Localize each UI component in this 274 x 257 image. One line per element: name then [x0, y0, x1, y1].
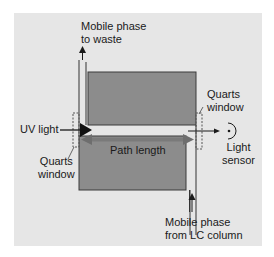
inlet-label-line2: from LC column	[165, 229, 243, 242]
outlet-arrow-icon	[79, 46, 86, 53]
inlet-label: Mobile phase from LC column	[165, 216, 243, 242]
uv-light-label: UV light	[20, 123, 59, 136]
upper-cell-block	[88, 72, 196, 125]
outlet-label-line1: Mobile phase	[81, 20, 146, 33]
right-window-label: Quarts window	[207, 88, 244, 114]
outlet-label-line2: to waste	[81, 33, 146, 46]
sensor-label-line1: Light	[222, 141, 255, 154]
right-window-label-line1: Quarts	[207, 88, 244, 101]
left-window-label-line1: Quarts	[38, 155, 75, 168]
light-sensor-icon	[228, 123, 236, 139]
sensor-label: Light sensor	[222, 141, 255, 167]
left-window-label-line2: window	[38, 168, 75, 181]
left-window-label: Quarts window	[38, 155, 75, 181]
outlet-tube	[79, 46, 86, 125]
sensor-label-line2: sensor	[222, 154, 255, 167]
inlet-label-line1: Mobile phase	[165, 216, 243, 229]
path-length-label: Path length	[110, 144, 166, 157]
inlet-tube	[189, 190, 196, 212]
outlet-label: Mobile phase to waste	[81, 20, 146, 46]
right-window-label-line2: window	[207, 101, 244, 114]
